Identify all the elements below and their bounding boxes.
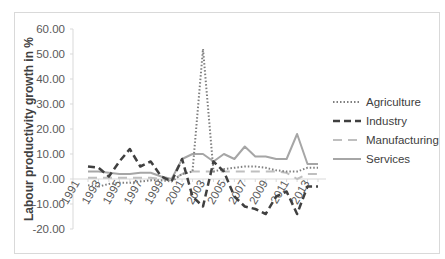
- x-tick-label: 2009: [247, 178, 270, 206]
- x-tick-label: 1993: [79, 178, 102, 206]
- y-tick-label: 50.00: [36, 48, 65, 60]
- x-tick-label: 2001: [163, 178, 186, 206]
- legend-label: Agriculture: [366, 96, 421, 108]
- y-tick-label: 10.00: [36, 148, 65, 160]
- y-tick-label: 40.00: [36, 73, 65, 85]
- y-tick-label: 20.00: [36, 123, 65, 135]
- legend-label: Manufacturing: [366, 134, 439, 146]
- y-tick-label: 30.00: [36, 98, 65, 110]
- y-tick-label: 60.00: [36, 23, 65, 35]
- x-tick-label: 2007: [226, 178, 249, 206]
- series-agriculture: [88, 49, 318, 187]
- legend: AgricultureIndustryManufacturingServices: [333, 96, 439, 165]
- y-tick-label: -20.00: [32, 223, 65, 235]
- line-chart: 60.0050.0040.0030.0020.0010.000.00-10.00…: [0, 0, 445, 259]
- x-tick-label: 1999: [142, 178, 165, 206]
- legend-label: Services: [366, 153, 410, 165]
- y-tick-label: 0.00: [43, 173, 65, 185]
- y-axis-title: Labour productivity growth in %: [22, 37, 36, 221]
- legend-label: Industry: [366, 115, 407, 127]
